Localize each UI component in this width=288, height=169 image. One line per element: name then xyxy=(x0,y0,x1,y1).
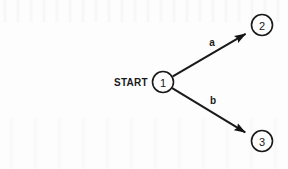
state-2-label: 2 xyxy=(259,20,265,32)
diagram-canvas: a b START 1 2 3 xyxy=(0,0,288,169)
transition-b-label: b xyxy=(210,95,216,106)
state-node-1[interactable]: 1 xyxy=(153,72,174,93)
state-node-3[interactable]: 3 xyxy=(252,131,273,152)
transition-a[interactable]: a xyxy=(173,34,246,76)
transition-b-arrow xyxy=(172,88,245,132)
state-1-label: 1 xyxy=(160,77,166,89)
transition-a-label: a xyxy=(209,37,215,48)
state-3-label: 3 xyxy=(259,136,265,148)
transition-b[interactable]: b xyxy=(172,88,245,132)
state-transition-diagram: a b START 1 2 3 xyxy=(0,0,288,169)
state-node-2[interactable]: 2 xyxy=(252,15,273,36)
start-label: START xyxy=(114,77,148,88)
